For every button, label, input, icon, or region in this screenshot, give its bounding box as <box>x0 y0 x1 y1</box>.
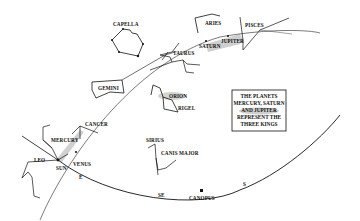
infobox-line-2: MERCURY, SATURN <box>233 100 284 106</box>
star-map: CAPELLA ARIES PISCES TAURUS SATURN JUPIT… <box>0 0 360 221</box>
canis-major-label: CANIS MAJOR <box>161 150 199 156</box>
capella-label: CAPELLA <box>113 21 139 27</box>
jupiter-label: JUPITER <box>221 38 244 44</box>
horizon-line <box>58 115 340 200</box>
infobox-line-1: THE PLANETS <box>241 93 278 99</box>
leo-label: LEO <box>34 157 45 163</box>
gemini-label: GEMINI <box>98 85 119 91</box>
aries-label: ARIES <box>205 20 221 26</box>
canopus-label: CANOPUS <box>189 195 215 201</box>
orion-label: ORION <box>169 93 187 99</box>
saturn-label: SATURN <box>199 43 221 49</box>
infobox-line-4: REPRESENT THE <box>237 114 282 120</box>
cancer-label: CANCER <box>85 121 108 127</box>
capella-constellation <box>112 29 143 56</box>
canis-major-constellation <box>148 144 176 175</box>
direction-e: E <box>79 174 83 180</box>
direction-s: S <box>243 181 246 187</box>
rigel-label: RIGEL <box>178 105 196 111</box>
direction-se: SE <box>158 192 165 198</box>
mercury-label: MERCURY <box>51 137 79 143</box>
taurus-label: TAURUS <box>173 50 195 56</box>
venus-label: VENUS <box>73 161 91 167</box>
sirius-label: SIRIUS <box>146 137 164 143</box>
ecliptic-line <box>40 30 320 220</box>
infobox-line-5: THREE KINGS <box>241 121 278 127</box>
sun-label: SUN <box>56 165 67 171</box>
pisces-label: PISCES <box>245 22 264 28</box>
infobox-line-3: AND JUPITER <box>241 107 277 113</box>
